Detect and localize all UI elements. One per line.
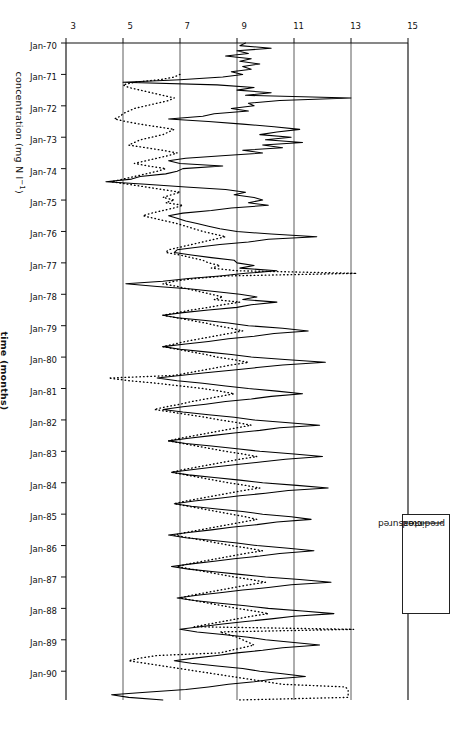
x-tick-label: Jan-87	[30, 575, 57, 585]
x-tick-label: Jan-75	[30, 198, 57, 208]
legend-label-measured: measured	[378, 519, 423, 529]
x-tick-label: Jan-86	[30, 544, 57, 554]
x-tick-label: Jan-73	[30, 135, 57, 145]
x-tick-label: Jan-89	[30, 638, 57, 648]
gridlines	[123, 43, 351, 700]
x-tick-label: Jan-88	[30, 606, 57, 616]
y-tick-label: 15	[400, 21, 418, 31]
x-tick-label: Jan-90	[30, 669, 57, 679]
x-tick-label: Jan-76	[30, 229, 57, 239]
y-axis-title: concentration (mg N l−1)	[14, 72, 26, 194]
x-tick-label: Jan-81	[30, 387, 57, 397]
y-tick-label: 9	[229, 21, 247, 31]
x-tick-label: Jan-78	[30, 292, 57, 302]
x-tick-label: Jan-82	[30, 418, 57, 428]
x-tick-label: Jan-83	[30, 449, 57, 459]
y-tick-label: 13	[343, 21, 361, 31]
x-tick-label: Jan-74	[30, 167, 57, 177]
y-tick-label: 5	[115, 21, 133, 31]
x-tick-label: Jan-70	[30, 41, 57, 51]
legend: predicted measured	[402, 514, 450, 614]
x-tick-label: Jan-84	[30, 481, 57, 491]
y-tick-label: 11	[286, 21, 304, 31]
x-tick-label: Jan-72	[30, 104, 57, 114]
x-tick-label: Jan-71	[30, 72, 57, 82]
y-tick-label: 3	[58, 21, 76, 31]
y-axis-title-exponent: −1	[18, 179, 26, 190]
series-predicted-line	[106, 43, 351, 700]
x-tick-label: Jan-80	[30, 355, 57, 365]
y-tick-label: 7	[172, 21, 190, 31]
y-axis-title-text: concentration (mg N l	[14, 72, 25, 180]
y-axis-title-close: )	[14, 190, 25, 194]
legend-swatches	[401, 515, 449, 615]
x-tick-label: Jan-79	[30, 324, 57, 334]
x-tick-label: Jan-77	[30, 261, 57, 271]
x-axis-title: time (months)	[0, 332, 10, 411]
x-tick-label: Jan-85	[30, 512, 57, 522]
